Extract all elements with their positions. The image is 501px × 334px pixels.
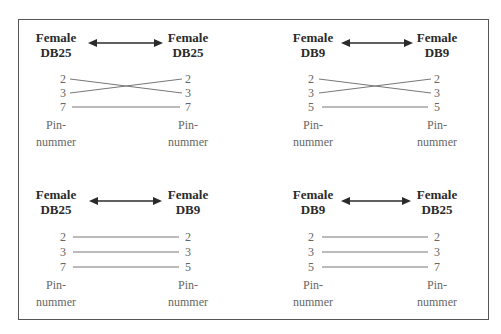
right-pin-caption: Pin-nummer: [402, 277, 472, 311]
right-pin: 2: [430, 231, 444, 243]
left-pin: 3: [304, 246, 318, 258]
right-pin: 7: [430, 261, 444, 273]
left-pin: 2: [304, 231, 318, 243]
left-pin: 5: [304, 261, 318, 273]
right-pin: 3: [430, 246, 444, 258]
left-pin-caption: Pin-nummer: [278, 277, 348, 311]
double-arrow-icon: [341, 197, 411, 205]
panel-db9-db25: Female DB9 Female DB25 2 3 5 2 3 7 Pin-n…: [0, 0, 236, 150]
